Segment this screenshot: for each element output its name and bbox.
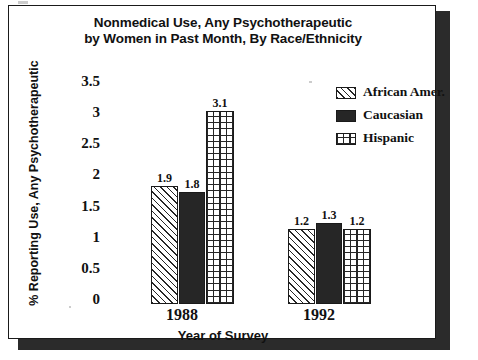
y-tick-label-2: 2 [54,166,100,183]
chart-title-line-1: Nonmedical Use, Any Psychotherapeutic [9,15,437,31]
bar-value-label: 1.8 [185,177,200,192]
legend-label: African Amer. [363,84,445,100]
bar-value-label: 1.2 [294,214,309,229]
x-axis-title: Year of Survey [9,328,437,343]
chart-legend: African Amer. Caucasian Hispanic [336,84,441,153]
scan-artifact [69,306,71,308]
y-axis-title: % Reporting Use, Any Psychotherapeutic [23,52,45,314]
chart-title: Nonmedical Use, Any Psychotherapeutic by… [9,15,437,47]
bar-1992-caucasian[interactable]: 1.3 [316,223,342,304]
y-tick-label-0: 0 [54,291,100,308]
y-axis-title-text: % Reporting Use, Any Psychotherapeutic [27,60,41,305]
x-tick-label-1992: 1992 [264,306,374,324]
bar-1992-african-amer[interactable]: 1.2 [288,229,315,304]
bar-value-label: 1.2 [350,214,365,229]
bar-1988-caucasian[interactable]: 1.8 [179,192,205,304]
legend-label: Caucasian [363,107,423,123]
legend-label: Hispanic [363,130,414,146]
y-tick-label-0-5: 0.5 [54,260,100,277]
y-tick-label-3-5: 3.5 [54,73,100,90]
bar-1992-hispanic[interactable]: 1.2 [343,229,371,304]
legend-swatch-solid-black-icon [336,110,356,122]
bar-value-label: 3.1 [213,96,228,111]
chart-figure: Nonmedical Use, Any Psychotherapeutic by… [0,0,478,360]
legend-swatch-diagonal-hatch-icon [336,87,356,99]
figure-drop-shadow-right [434,11,450,350]
figure-frame: Nonmedical Use, Any Psychotherapeutic by… [8,5,436,339]
bar-value-label: 1.3 [322,208,337,223]
y-tick-label-1: 1 [54,229,100,246]
legend-item-caucasian[interactable]: Caucasian [336,107,441,130]
scan-artifact [18,1,28,4]
y-tick-label-3: 3 [54,104,100,121]
chart-title-line-2: by Women in Past Month, By Race/Ethnicit… [9,31,437,47]
y-tick-label-2-5: 2.5 [54,135,100,152]
bar-1988-hispanic[interactable]: 3.1 [206,111,234,304]
bar-1988-african-amer[interactable]: 1.9 [151,186,178,304]
legend-item-african-amer[interactable]: African Amer. [336,84,441,107]
scan-artifact [309,81,312,83]
legend-swatch-cross-hatch-icon [336,133,356,145]
y-tick-label-1-5: 1.5 [54,198,100,215]
x-tick-label-1988: 1988 [127,306,237,324]
bar-value-label: 1.9 [157,171,172,186]
legend-item-hispanic[interactable]: Hispanic [336,130,441,153]
